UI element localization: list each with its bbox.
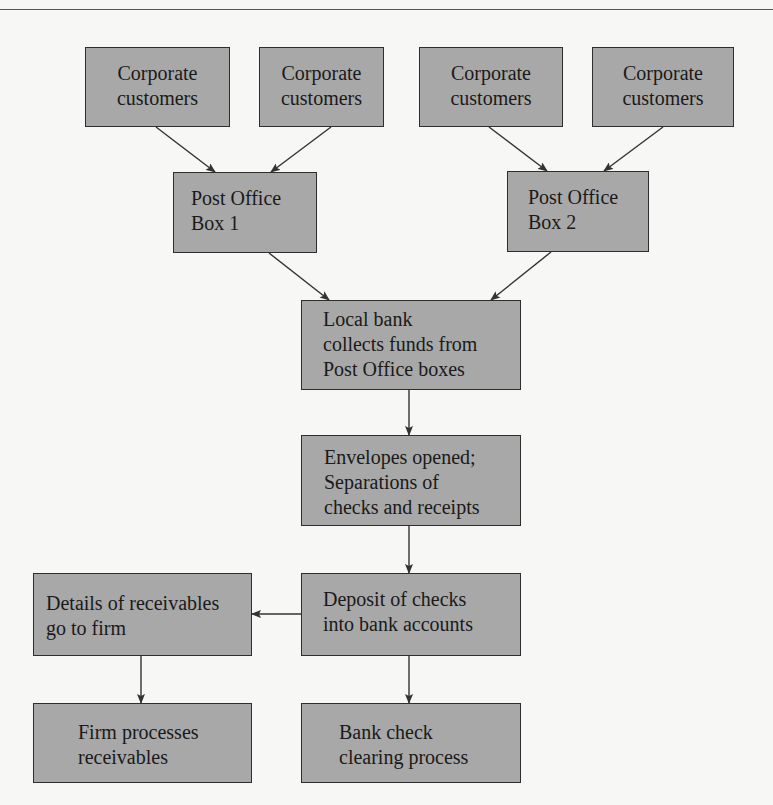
- label-line: Firm processes: [78, 720, 199, 745]
- arrow-po2-to-local-bank: [491, 252, 551, 300]
- node-local-bank: Local bank collects funds from Post Offi…: [301, 300, 521, 390]
- node-label: Corporate customers: [593, 61, 733, 111]
- arrow-cc3-to-po2: [489, 127, 547, 171]
- node-label: Post Office Box 2: [528, 185, 618, 235]
- label-line: collects funds from: [323, 332, 477, 357]
- label-line: customers: [260, 86, 383, 111]
- label-line: Corporate: [593, 61, 733, 86]
- label-line: Deposit of checks: [323, 587, 473, 612]
- label-line: Details of receivables: [46, 591, 219, 616]
- label-line: customers: [86, 86, 229, 111]
- node-label: Corporate customers: [420, 61, 562, 111]
- label-line: Box 2: [528, 210, 618, 235]
- node-firm-processes: Firm processes receivables: [33, 703, 252, 783]
- arrow-po1-to-local-bank: [269, 253, 329, 300]
- label-line: Box 1: [191, 211, 281, 236]
- node-label: Post Office Box 1: [191, 186, 281, 236]
- label-line: Corporate: [420, 61, 562, 86]
- node-details-receivables: Details of receivables go to firm: [33, 573, 252, 656]
- label-line: checks and receipts: [324, 495, 479, 520]
- label-line: into bank accounts: [323, 612, 473, 637]
- label-line: receivables: [78, 745, 199, 770]
- node-label: Firm processes receivables: [78, 720, 199, 770]
- node-corporate-customers-4: Corporate customers: [592, 47, 734, 127]
- node-label: Deposit of checks into bank accounts: [323, 587, 473, 637]
- arrow-cc2-to-po1: [271, 127, 331, 172]
- node-deposit-checks: Deposit of checks into bank accounts: [301, 573, 521, 656]
- label-line: customers: [420, 86, 562, 111]
- label-line: customers: [593, 86, 733, 111]
- node-label: Envelopes opened; Separations of checks …: [324, 445, 479, 520]
- node-envelopes-opened: Envelopes opened; Separations of checks …: [301, 435, 521, 526]
- label-line: Corporate: [86, 61, 229, 86]
- label-line: go to firm: [46, 616, 219, 641]
- label-line: clearing process: [339, 745, 468, 770]
- label-line: Post Office: [191, 186, 281, 211]
- arrow-cc1-to-po1: [156, 127, 215, 172]
- node-corporate-customers-3: Corporate customers: [419, 47, 563, 127]
- node-label: Local bank collects funds from Post Offi…: [323, 307, 477, 382]
- node-label: Bank check clearing process: [339, 720, 468, 770]
- label-line: Post Office boxes: [323, 357, 477, 382]
- node-corporate-customers-1: Corporate customers: [85, 47, 230, 127]
- label-line: Separations of: [324, 470, 479, 495]
- arrow-cc4-to-po2: [604, 127, 663, 171]
- label-line: Post Office: [528, 185, 618, 210]
- node-label: Details of receivables go to firm: [46, 591, 219, 641]
- node-post-office-box-2: Post Office Box 2: [507, 171, 649, 252]
- label-line: Bank check: [339, 720, 468, 745]
- node-label: Corporate customers: [260, 61, 383, 111]
- node-label: Corporate customers: [86, 61, 229, 111]
- node-bank-check-clearing: Bank check clearing process: [301, 703, 521, 783]
- label-line: Envelopes opened;: [324, 445, 479, 470]
- node-corporate-customers-2: Corporate customers: [259, 47, 384, 127]
- label-line: Corporate: [260, 61, 383, 86]
- label-line: Local bank: [323, 307, 477, 332]
- node-post-office-box-1: Post Office Box 1: [173, 172, 317, 253]
